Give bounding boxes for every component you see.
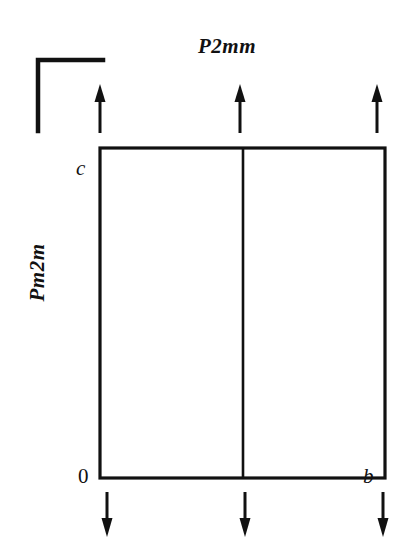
bottom-arrow-right-icon — [378, 492, 389, 537]
top-arrow-left-head — [95, 84, 106, 102]
axis-label-c: c — [76, 158, 85, 179]
top-symmetry-label: P2mm — [198, 36, 256, 57]
corner-bracket-path — [38, 60, 103, 131]
top-arrow-center-head — [235, 84, 246, 102]
corner-bracket-icon — [38, 60, 103, 131]
symmetry-diagram-figure: P2mm Pm2m c 0 b — [0, 0, 412, 559]
origin-label: 0 — [78, 466, 89, 487]
top-arrow-right-head — [372, 84, 383, 102]
diagram-canvas — [0, 0, 412, 559]
unit-cell-rectangle — [100, 148, 385, 478]
bottom-arrow-center-head — [240, 518, 251, 537]
bottom-arrow-right-head — [378, 518, 389, 537]
bottom-arrow-left-head — [102, 518, 113, 537]
bottom-arrow-group — [102, 492, 389, 537]
top-arrow-center-icon — [235, 84, 246, 133]
top-arrow-left-icon — [95, 84, 106, 133]
top-arrow-group — [95, 84, 383, 133]
bottom-arrow-center-icon — [240, 492, 251, 537]
axis-label-b: b — [363, 466, 374, 487]
bottom-arrow-left-icon — [102, 492, 113, 537]
top-arrow-right-icon — [372, 84, 383, 133]
left-symmetry-label: Pm2m — [27, 244, 48, 302]
